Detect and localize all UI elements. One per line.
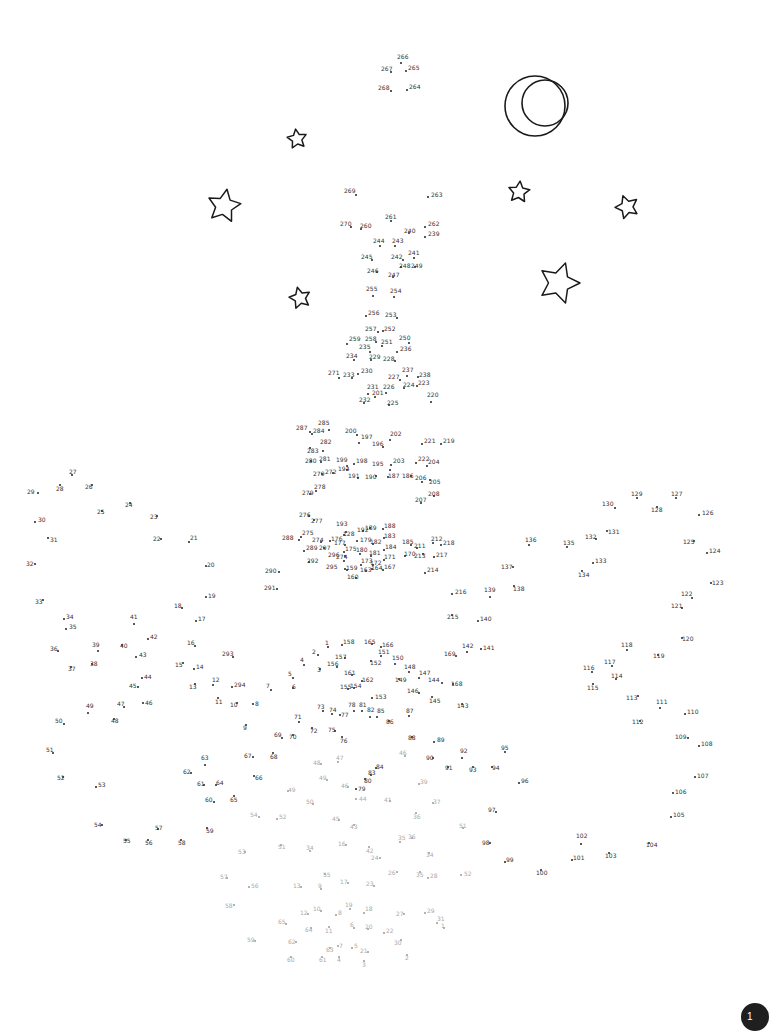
dot-number-label: 35 bbox=[398, 835, 406, 841]
dot-number-label: 158 bbox=[343, 639, 354, 645]
dot-number-label: 53 bbox=[98, 782, 106, 788]
dot-number-label: 23 bbox=[150, 514, 158, 520]
dot-number-label: 114 bbox=[611, 673, 622, 679]
dot-number-label: 252 bbox=[384, 326, 395, 332]
puzzle-dot bbox=[343, 560, 345, 562]
puzzle-dot bbox=[394, 663, 396, 665]
dot-number-label: 184 bbox=[385, 544, 396, 550]
dot-number-label: 47 bbox=[336, 755, 344, 761]
dot-number-label: 57 bbox=[155, 825, 163, 831]
dot-number-label: 52 bbox=[464, 871, 472, 877]
dot-number-label: 63 bbox=[201, 755, 209, 761]
dot-number-label: 161 bbox=[344, 670, 355, 676]
dot-number-label: 61 bbox=[197, 781, 205, 787]
dot-number-label: 159 bbox=[346, 565, 357, 571]
dot-number-label: 141 bbox=[483, 645, 494, 651]
dot-number-label: 168 bbox=[451, 681, 462, 687]
puzzle-dot bbox=[670, 816, 672, 818]
dot-number-label: 96 bbox=[521, 778, 529, 784]
dot-number-label: 294 bbox=[234, 682, 245, 688]
dot-number-label: 47 bbox=[117, 701, 125, 707]
puzzle-dot bbox=[390, 220, 392, 222]
puzzle-dot bbox=[424, 226, 426, 228]
dot-number-label: 64 bbox=[216, 780, 224, 786]
puzzle-dot bbox=[135, 656, 137, 658]
puzzle-dot bbox=[379, 245, 381, 247]
puzzle-dot bbox=[353, 359, 355, 361]
dot-number-label: 196 bbox=[372, 441, 383, 447]
dot-number-label: 195 bbox=[372, 461, 383, 467]
puzzle-dot bbox=[298, 539, 300, 541]
puzzle-dot bbox=[592, 562, 594, 564]
dot-number-label: 17 bbox=[198, 616, 206, 622]
puzzle-dot bbox=[193, 668, 195, 670]
dot-number-label: 106 bbox=[675, 789, 686, 795]
dot-number-label: 218 bbox=[443, 540, 454, 546]
puzzle-dot bbox=[433, 556, 435, 558]
dot-number-label: 265 bbox=[408, 65, 419, 71]
puzzle-dot bbox=[258, 816, 260, 818]
puzzle-dot bbox=[355, 788, 357, 790]
dot-number-label: 26 bbox=[85, 484, 93, 490]
dot-number-label: 283 bbox=[307, 448, 318, 454]
dot-number-label: 23 bbox=[366, 881, 374, 887]
dot-number-label: 54 bbox=[250, 812, 258, 818]
dot-number-label: 65 bbox=[278, 919, 286, 925]
dot-number-label: 20 bbox=[365, 924, 373, 930]
dot-number-label: 58 bbox=[225, 903, 233, 909]
dot-number-label: 239 bbox=[428, 231, 439, 237]
dot-number-label: 48 bbox=[111, 718, 119, 724]
dot-number-label: 180 bbox=[356, 547, 367, 553]
star-icon bbox=[509, 181, 530, 201]
dot-number-label: 79 bbox=[358, 786, 366, 792]
dot-number-label: 46 bbox=[145, 700, 153, 706]
dot-number-label: 100 bbox=[536, 870, 547, 876]
puzzle-dot bbox=[383, 932, 385, 934]
dot-number-label: 66 bbox=[255, 775, 263, 781]
dot-number-label: 131 bbox=[608, 529, 619, 535]
dot-number-label: 140 bbox=[480, 616, 491, 622]
dot-number-label: 279 bbox=[313, 471, 324, 477]
puzzle-dot bbox=[518, 782, 520, 784]
puzzle-dot bbox=[393, 296, 395, 298]
dot-number-label: 269 bbox=[344, 188, 355, 194]
dot-number-label: 295 bbox=[326, 564, 337, 570]
dot-number-label: 164 bbox=[371, 565, 382, 571]
puzzle-dot bbox=[477, 620, 479, 622]
dot-number-label: 46 bbox=[399, 750, 407, 756]
dot-number-label: 93 bbox=[469, 767, 477, 773]
puzzle-dot bbox=[361, 710, 363, 712]
dot-number-label: 171 bbox=[384, 554, 395, 560]
dot-number-label: 224 bbox=[403, 382, 414, 388]
dot-number-label: 148 bbox=[404, 664, 415, 670]
dot-number-label: 288 bbox=[282, 535, 293, 541]
dot-number-label: 125 bbox=[683, 539, 694, 545]
puzzle-dot bbox=[396, 871, 398, 873]
puzzle-dot bbox=[675, 497, 677, 499]
puzzle-dot bbox=[466, 651, 468, 653]
dot-number-label: 175 bbox=[345, 546, 356, 552]
dot-number-label: 169 bbox=[444, 651, 455, 657]
puzzle-dot bbox=[363, 912, 365, 914]
dot-number-label: 7 bbox=[339, 943, 343, 949]
dot-number-label: 27 bbox=[69, 469, 77, 475]
dot-number-label: 235 bbox=[359, 344, 370, 350]
dot-number-label: 51 bbox=[46, 747, 54, 753]
dot-number-label: 129 bbox=[631, 491, 642, 497]
puzzle-dot bbox=[687, 737, 689, 739]
dot-number-label: 62 bbox=[288, 939, 296, 945]
dot-number-label: 77 bbox=[341, 712, 349, 718]
dot-number-label: 230 bbox=[361, 368, 372, 374]
dot-number-label: 151 bbox=[378, 649, 389, 655]
puzzle-dot bbox=[331, 713, 333, 715]
dot-number-label: 45 bbox=[332, 816, 340, 822]
dot-number-label: 34 bbox=[426, 852, 434, 858]
dot-number-label: 204 bbox=[428, 459, 439, 465]
dot-number-label: 185 bbox=[402, 539, 413, 545]
star-icon bbox=[615, 196, 637, 219]
dot-number-label: 217 bbox=[436, 552, 447, 558]
puzzle-dot bbox=[188, 541, 190, 543]
dot-number-label: 57 bbox=[220, 874, 228, 880]
puzzle-dot bbox=[369, 716, 371, 718]
